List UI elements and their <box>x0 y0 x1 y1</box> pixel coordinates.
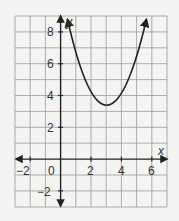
x-tick-label-2: 2 <box>87 164 94 178</box>
parabola-curve <box>68 20 147 106</box>
x-axis-label: x <box>157 144 165 158</box>
y-axis-label: y <box>65 15 73 29</box>
x-tick-label-neg2: −2 <box>16 164 30 178</box>
origin-label: 0 <box>48 164 55 178</box>
y-tick-label-4: 4 <box>47 89 54 103</box>
x-tick-label-6: 6 <box>148 164 155 178</box>
coordinate-plane: y x 0 −2 2 4 6 8 6 4 2 −2 <box>0 0 179 221</box>
y-tick-label-neg2: −2 <box>37 185 51 199</box>
y-tick-label-8: 8 <box>47 25 54 39</box>
y-tick-label-2: 2 <box>47 121 54 135</box>
y-tick-label-6: 6 <box>47 57 54 71</box>
grid <box>15 16 167 207</box>
x-tick-label-4: 4 <box>118 164 125 178</box>
